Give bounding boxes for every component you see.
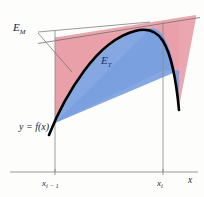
x-axis-label: x [187,175,193,185]
figure-container: EM ET y = f(x) xi − 1 xi x [0,0,204,197]
midpoint-error-subscript: M [19,28,26,35]
tick-label-right: xi [156,178,163,189]
function-label: y = f(x) [18,121,50,133]
tick-label-left: xi − 1 [41,178,59,189]
error-bounds-diagram: EM ET y = f(x) xi − 1 xi x [0,0,204,197]
tick-label-right-subscript: i [161,182,163,189]
tick-label-left-subscript: i − 1 [46,182,59,189]
midpoint-error-label: EM [12,21,26,35]
